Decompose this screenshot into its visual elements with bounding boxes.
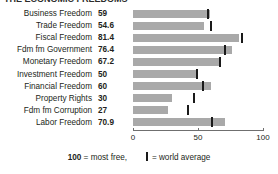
world-average-marker [202, 81, 204, 91]
x-axis-label-50: 50 [194, 133, 203, 143]
chart-title-text: THE ECONOMIC FREEDOMS [4, 0, 204, 4]
chart-bar [133, 22, 204, 30]
chart-row-label: Labor Freedom [0, 117, 92, 128]
legend-scale-value: 100 [68, 153, 82, 162]
chart-row: Labor Freedom70.9 [0, 117, 278, 129]
chart-row-label: Financial Freedom [0, 81, 92, 92]
x-axis: 0 50 100 [133, 130, 263, 148]
economic-freedoms-bar-chart: THE ECONOMIC FREEDOMS Business Freedom59… [0, 0, 278, 174]
chart-row: Monetary Freedom67.2 [0, 56, 278, 68]
chart-row-label: Business Freedom [0, 8, 92, 19]
chart-bar [133, 106, 168, 114]
chart-legend: 100 = most free, = world average [0, 152, 278, 164]
chart-bar [133, 34, 239, 42]
x-axis-label-100: 100 [256, 133, 269, 143]
chart-row: Fiscal Freedom81.4 [0, 32, 278, 44]
chart-row-value: 50 [98, 69, 126, 80]
chart-row: Property Rights30 [0, 93, 278, 105]
chart-bar [133, 94, 172, 102]
world-average-marker [187, 105, 189, 115]
chart-row-label: Fdm fm Corruption [0, 105, 92, 116]
x-axis-tick [198, 128, 199, 131]
chart-row-value: 76.4 [98, 44, 126, 55]
chart-bar-track [133, 69, 263, 81]
chart-row: Trade Freedom54.6 [0, 20, 278, 32]
chart-bar-track [133, 32, 263, 44]
world-average-marker [224, 45, 226, 55]
chart-row: Business Freedom59 [0, 8, 278, 20]
chart-row-label: Property Rights [0, 93, 92, 104]
chart-bar [133, 46, 232, 54]
chart-row-value: 81.4 [98, 32, 126, 43]
chart-bar [133, 10, 210, 18]
chart-bar [133, 58, 220, 66]
x-axis-tick [263, 128, 264, 131]
chart-row-value: 60 [98, 81, 126, 92]
chart-row-label: Trade Freedom [0, 20, 92, 31]
chart-row: Investment Freedom50 [0, 69, 278, 81]
chart-bar [133, 82, 211, 90]
legend-scale-text: = most free, [84, 153, 127, 162]
chart-bar-track [133, 81, 263, 93]
x-axis-label-0: 0 [131, 133, 135, 143]
chart-row: Financial Freedom60 [0, 81, 278, 93]
chart-row-value: 30 [98, 93, 126, 104]
world-average-marker [219, 57, 221, 67]
chart-row: Fdm fm Corruption27 [0, 105, 278, 117]
chart-row-label: Investment Freedom [0, 69, 92, 80]
chart-bar-track [133, 105, 263, 117]
chart-row-value: 59 [98, 8, 126, 19]
chart-row-value: 54.6 [98, 20, 126, 31]
x-axis-tick [133, 128, 134, 131]
chart-plot-area: Business Freedom59Trade Freedom54.6Fisca… [0, 8, 278, 130]
chart-row-label: Fiscal Freedom [0, 32, 92, 43]
chart-bar-track [133, 8, 263, 20]
world-average-marker [207, 9, 209, 19]
chart-row-value: 27 [98, 105, 126, 116]
world-average-marker [193, 93, 195, 103]
world-average-marker [210, 21, 212, 31]
chart-bar-track [133, 93, 263, 105]
world-average-marker-icon [146, 152, 148, 161]
chart-bar-track [133, 44, 263, 56]
world-average-marker [196, 69, 198, 79]
world-average-marker [241, 33, 243, 43]
chart-row: Fdm fm Government76.4 [0, 44, 278, 56]
chart-title-cutoff: THE ECONOMIC FREEDOMS [4, 0, 204, 5]
chart-row-label: Fdm fm Government [0, 44, 92, 55]
chart-row-label: Monetary Freedom [0, 56, 92, 67]
chart-row-value: 70.9 [98, 117, 126, 128]
legend-marker-text: = world average [152, 153, 210, 162]
chart-bar-track [133, 20, 263, 32]
chart-row-value: 67.2 [98, 56, 126, 67]
chart-bar-track [133, 56, 263, 68]
chart-bar [133, 70, 198, 78]
world-average-marker [211, 117, 213, 127]
